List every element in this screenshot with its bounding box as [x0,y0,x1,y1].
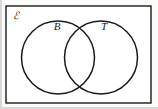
venn-diagram-figure: ℰ B T [0,0,158,109]
universal-set-label: ℰ [13,10,20,21]
set-t-label: T [101,20,108,32]
set-b-label: B [54,20,61,32]
venn-diagram-canvas: ℰ B T [0,0,158,109]
